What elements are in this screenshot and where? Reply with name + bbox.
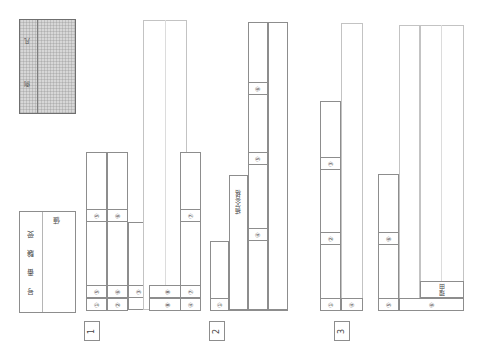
axis-title-divider [42,212,43,312]
bar-inner-divider [165,20,166,310]
axis-scale-label-0: 受 [26,231,37,238]
legend-entry-1-label: 例 [24,81,30,87]
legend-entry-0-label: 凡 [24,38,30,44]
group-marker-3: 3 [334,321,350,341]
legend-divider [37,20,38,113]
bar-label: ② [107,298,128,311]
bar-sub-marker: ⑤ [86,285,107,298]
bar-label: ⑤ [378,298,399,311]
bar-vertical-label: 補欠合格 [229,178,248,226]
bar-sub-marker: ⑦ [180,285,201,298]
table-row [341,23,363,310]
bar-label: ① [320,298,341,311]
table-row [399,25,420,310]
chart-canvas: 凡 例 値 受 験 番 号 ⑤ ⑤ ① ⑥ ⑥ ② ③ [0,0,477,363]
bar-mid-marker: ⑦ [180,209,201,222]
bar-sub-marker: ⑥ [107,285,128,298]
bar-inner-divider [441,25,442,310]
axis-main-label: 値 [52,217,63,224]
table-row [420,25,464,310]
bar-mid-marker-3: ⑥ [248,82,268,95]
legend-panel: 凡 例 [19,19,76,114]
group-marker-1: 1 [84,321,100,341]
bar-mid-marker: ⑥ [107,209,128,222]
bar-label: ① [210,298,229,311]
bar-mid-marker: ④ [248,228,268,241]
bar-vertical-label-riyuu: 理由 [420,281,464,298]
bar-mid-marker: ⑥ [378,232,399,245]
bar-mid-marker-2: ② [320,232,341,245]
group-marker-2: 2 [209,321,225,341]
axis-scale-label-3: 号 [26,288,37,295]
table-row [248,22,268,310]
bar-mid-marker: ③ [320,157,341,170]
bar-label: ④ [180,298,201,311]
bar-mid-marker: ⑤ [86,209,107,222]
axis-scale-label-2: 番 [26,269,37,276]
axis-scale-label-1: 験 [26,250,37,257]
bar-label: ① [86,298,107,311]
bar-mid-marker-2: ⑤ [248,152,268,165]
table-row [320,101,341,310]
table-row [268,22,288,310]
bar-label: ⑥ [399,298,464,311]
axis-title-box: 値 受 験 番 号 [19,211,76,313]
bar-label: ④ [341,298,363,311]
